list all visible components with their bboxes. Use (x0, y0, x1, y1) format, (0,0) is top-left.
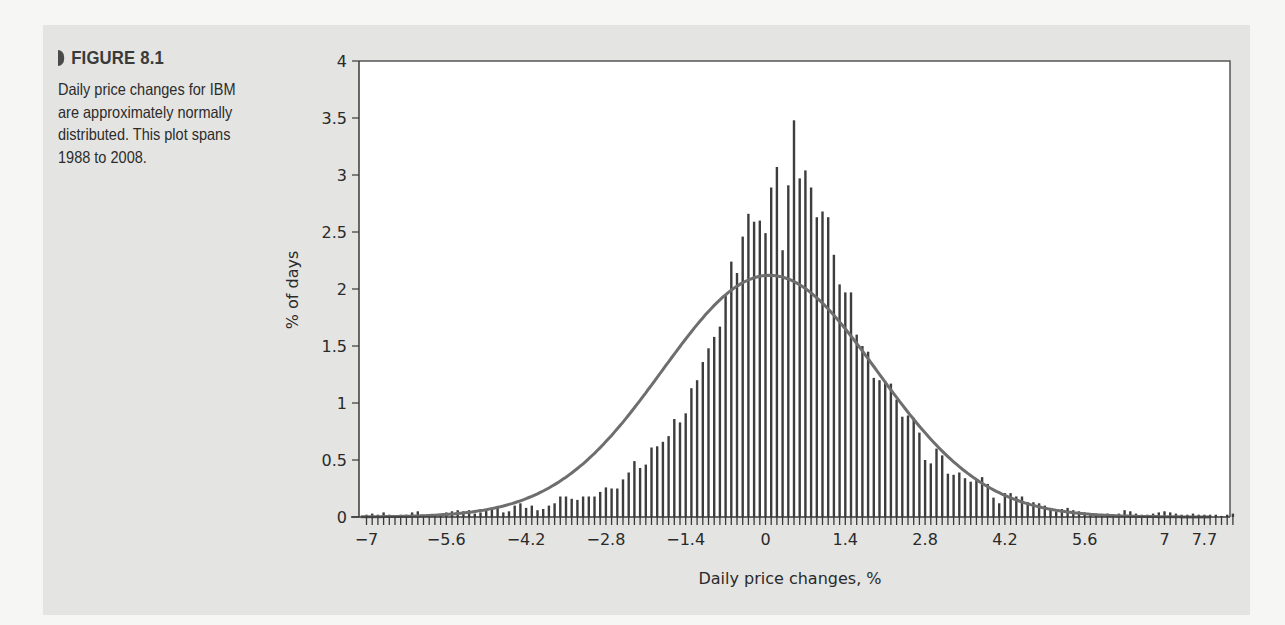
histogram-bar (702, 362, 704, 517)
histogram-bar (645, 465, 647, 517)
histogram-bar (947, 474, 949, 517)
histogram-bar (799, 178, 801, 517)
histogram-bar (861, 346, 863, 517)
x-axis-title: Daily price changes, % (698, 569, 881, 588)
histogram-bar (548, 506, 550, 517)
histogram-bar (787, 185, 789, 517)
histogram-bar (605, 487, 607, 517)
histogram-bar (781, 250, 783, 517)
histogram-bar (667, 436, 669, 517)
histogram-bar (588, 497, 590, 518)
histogram-bar (525, 508, 527, 517)
x-tick-label: −7 (355, 530, 379, 549)
histogram-bar (952, 475, 954, 517)
histogram-bar (833, 255, 835, 517)
histogram-bar (998, 503, 1000, 517)
histogram-bar (913, 418, 915, 517)
histogram-bar (810, 188, 812, 518)
histogram-bar (918, 433, 920, 517)
histogram-bar (958, 473, 960, 518)
histogram-bar (599, 492, 601, 517)
x-tick-label: 7.7 (1192, 530, 1217, 549)
histogram-bar (673, 419, 675, 517)
histogram-bar (804, 170, 806, 517)
y-tick-label: 2.5 (322, 223, 347, 242)
histogram-bar (730, 262, 732, 517)
histogram-chart: 00.511.522.533.54 −7−5.6−4.2−2.8−1.401.4… (0, 0, 1285, 625)
histogram-bar (827, 217, 829, 517)
x-tick-label: −1.4 (666, 530, 705, 549)
histogram-bar (576, 500, 578, 517)
x-tick-label: 1.4 (833, 530, 858, 549)
y-tick-label: 1 (337, 394, 347, 413)
y-axis-title: % of days (283, 251, 302, 330)
y-tick-label: 2 (337, 280, 347, 299)
y-tick-label: 1.5 (322, 337, 347, 356)
histogram-bar (565, 497, 567, 518)
histogram-bar (690, 388, 692, 517)
histogram-bar (850, 292, 852, 517)
histogram-bar (924, 460, 926, 517)
histogram-bar (719, 327, 721, 517)
histogram-bar (496, 508, 498, 517)
histogram-bar (884, 381, 886, 517)
histogram-bar (571, 499, 573, 517)
histogram-bar (633, 461, 635, 517)
histogram-bar (873, 378, 875, 517)
histogram-bar (519, 503, 521, 517)
histogram-bar (970, 482, 972, 517)
x-tick-label: −2.8 (586, 530, 625, 549)
histogram-bar (662, 442, 664, 517)
histogram-bar (639, 468, 641, 517)
histogram-bar (930, 463, 932, 517)
histogram-bar (616, 489, 618, 518)
histogram-bar (935, 449, 937, 517)
y-tick-label: 0.5 (322, 451, 347, 470)
histogram-bar (1232, 514, 1234, 517)
histogram-bar (964, 478, 966, 517)
histogram-bar (742, 237, 744, 517)
histogram-bar (593, 497, 595, 518)
histogram-bar (992, 498, 994, 517)
y-tick-label: 3.5 (322, 109, 347, 128)
histogram-bar (816, 217, 818, 517)
histogram-bar (531, 506, 533, 517)
histogram-bar (941, 455, 943, 517)
histogram-bar (867, 352, 869, 517)
histogram-bar (610, 489, 612, 518)
y-tick-label: 4 (337, 52, 347, 71)
histogram-bar (713, 337, 715, 517)
x-tick-label: −5.6 (427, 530, 466, 549)
histogram-bar (975, 479, 977, 517)
histogram-bar (559, 497, 561, 518)
x-tick-label: −4.2 (507, 530, 546, 549)
histogram-bar (901, 417, 903, 517)
x-tick-label: 0 (760, 530, 770, 549)
histogram-bar (793, 120, 795, 517)
histogram-bar (582, 497, 584, 518)
histogram-bar (907, 416, 909, 518)
histogram-bar (622, 479, 624, 517)
histogram-bar (707, 348, 709, 517)
y-tick-label: 3 (337, 166, 347, 185)
histogram-bar (514, 506, 516, 517)
histogram-bar (776, 167, 778, 517)
histogram-bar (724, 295, 726, 517)
histogram-bar (650, 448, 652, 518)
histogram-bar (890, 384, 892, 517)
histogram-bar (679, 422, 681, 517)
x-axis-ticks: −7−5.6−4.2−2.8−1.401.42.84.25.677.7 (355, 517, 1233, 549)
histogram-bar (753, 222, 755, 517)
histogram-bar (878, 380, 880, 517)
x-tick-label: 7 (1159, 530, 1169, 549)
histogram-bar (553, 503, 555, 517)
histogram-bar (1021, 497, 1023, 518)
histogram-bar (628, 473, 630, 518)
histogram-bar (747, 214, 749, 517)
histogram-bar (895, 400, 897, 517)
histogram-bar (696, 380, 698, 517)
x-tick-label: 5.6 (1072, 530, 1097, 549)
histogram-bar (759, 221, 761, 517)
histogram-bar (821, 212, 823, 518)
histogram-bar (770, 188, 772, 518)
